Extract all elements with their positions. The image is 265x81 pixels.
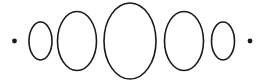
dot-left xyxy=(12,39,17,44)
dot-right xyxy=(248,39,253,44)
figure-canvas xyxy=(0,0,265,81)
ellipse-figure: A horizontal row of five outlined ellips… xyxy=(0,0,265,81)
figure-background xyxy=(0,0,265,81)
